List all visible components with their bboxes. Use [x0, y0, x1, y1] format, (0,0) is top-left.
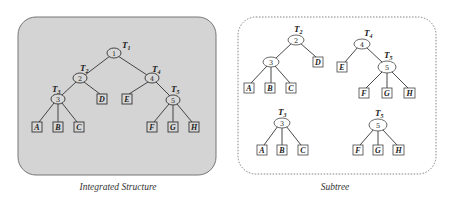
tree-diagram: 1 T1 2 T2 3 T3 4 T4 5 T5 A B C D E F G — [0, 0, 454, 205]
svg-text:D: D — [314, 58, 321, 67]
svg-text:D: D — [98, 95, 105, 104]
svg-text:B: B — [54, 123, 61, 132]
subtree-panel: 2 T2 3 D A B C 4 T4 E 5 T5 F G H — [238, 17, 436, 192]
svg-text:H: H — [190, 123, 198, 132]
integrated-leaf-B: B — [53, 122, 63, 132]
svg-text:C: C — [76, 123, 82, 132]
svg-text:2: 2 — [294, 37, 298, 45]
svg-text:G: G — [170, 123, 176, 132]
svg-text:3: 3 — [280, 120, 284, 128]
svg-text:C: C — [300, 146, 306, 155]
svg-text:F: F — [148, 123, 155, 132]
integrated-leaf-E: E — [122, 94, 132, 104]
svg-text:E: E — [338, 63, 344, 72]
svg-text:F: F — [360, 89, 367, 98]
integrated-leaf-G: G — [168, 122, 178, 132]
svg-text:5: 5 — [376, 122, 380, 130]
integrated-leaf-F: F — [147, 122, 157, 132]
integrated-leaf-C: C — [74, 122, 84, 132]
svg-text:4: 4 — [150, 75, 154, 83]
svg-text:4: 4 — [360, 41, 364, 49]
svg-text:A: A — [245, 84, 252, 93]
svg-text:5: 5 — [385, 64, 389, 72]
svg-text:B: B — [266, 84, 273, 93]
svg-text:2: 2 — [78, 75, 82, 83]
svg-text:G: G — [384, 89, 390, 98]
svg-text:5: 5 — [171, 97, 175, 105]
integrated-structure-background — [18, 17, 216, 175]
svg-text:G: G — [375, 146, 381, 155]
svg-text:H: H — [394, 146, 402, 155]
svg-text:3: 3 — [269, 59, 273, 67]
svg-text:3: 3 — [56, 96, 60, 104]
svg-text:E: E — [123, 95, 129, 104]
subtree-caption: Subtree — [321, 182, 350, 192]
svg-text:C: C — [288, 84, 294, 93]
svg-text:1: 1 — [112, 50, 116, 58]
svg-text:B: B — [278, 146, 285, 155]
svg-text:A: A — [258, 146, 265, 155]
integrated-structure-panel: 1 T1 2 T2 3 T3 4 T4 5 T5 A B C D E F G — [18, 17, 216, 192]
integrated-structure-caption: Integrated Structure — [79, 182, 157, 192]
svg-text:F: F — [354, 146, 361, 155]
integrated-leaf-A: A — [32, 122, 42, 132]
svg-text:A: A — [33, 123, 40, 132]
svg-text:H: H — [405, 89, 413, 98]
integrated-leaf-D: D — [97, 94, 107, 104]
integrated-leaf-H: H — [189, 122, 199, 132]
